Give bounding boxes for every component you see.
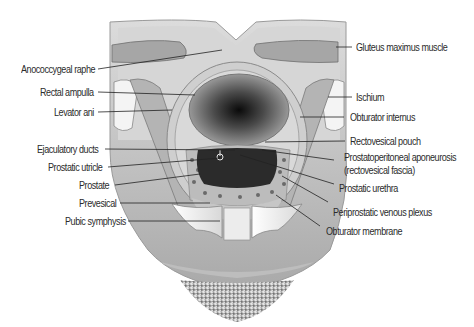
label-ejaculatory-ducts: Ejaculatory ducts xyxy=(37,143,98,155)
pubic-symphysis xyxy=(224,208,250,240)
prostate xyxy=(197,148,277,188)
label-rectovesical-pouch: Rectovesical pouch xyxy=(350,135,421,147)
label-anococcygeal-raphe: Anococcygeal raphe xyxy=(21,63,95,75)
label-rectovesical-fascia: (rectovesical fascia) xyxy=(344,164,415,176)
label-prostate: Prostate xyxy=(79,179,109,191)
label-pubic-symphysis: Pubic symphysis xyxy=(65,215,126,227)
label-prevesical: Prevesical xyxy=(79,197,116,209)
label-prostatic-urethra: Prostatic urethra xyxy=(339,182,398,194)
label-periprostatic-venous-plexus: Periprostatic venous plexus xyxy=(333,206,432,218)
label-prostatic-utricle: Prostatic utricle xyxy=(48,161,102,173)
pubic-hair xyxy=(180,280,294,322)
label-gluteus-maximus: Gluteus maximus muscle xyxy=(356,41,447,53)
label-prostatoperitoneal-aponeurosis: Prostatoperitoneal aponeurosis xyxy=(344,151,456,163)
rectal-ampulla xyxy=(189,74,289,146)
gluteus-left xyxy=(112,41,186,63)
label-rectal-ampulla: Rectal ampulla xyxy=(40,86,94,98)
label-obturator-membrane: Obturator membrane xyxy=(326,225,402,237)
label-ischium: Ischium xyxy=(356,91,384,103)
label-levator-ani: Levator ani xyxy=(54,106,94,118)
pelvis-cross-section-diagram: Anococcygeal raphe Rectal ampulla Levato… xyxy=(0,0,474,327)
label-obturator-internus: Obturator internus xyxy=(350,111,415,123)
